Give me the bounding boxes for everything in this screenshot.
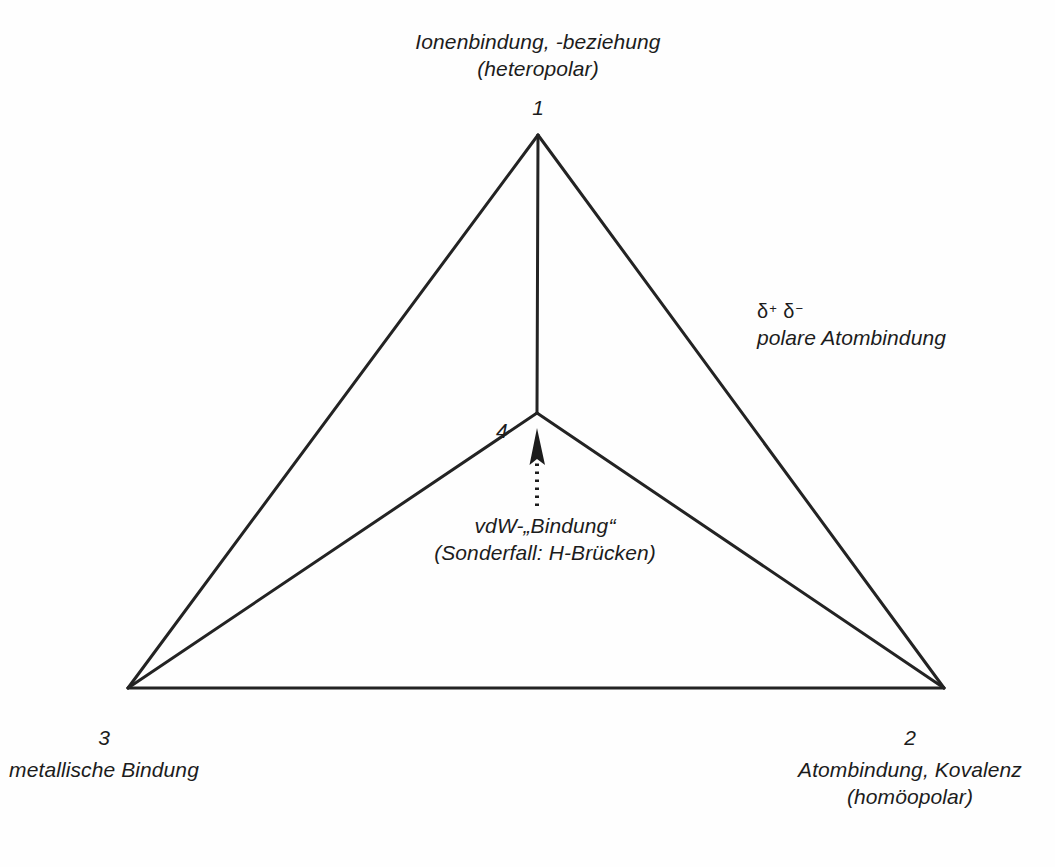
apex-label-ionic-bond: Ionenbindung, -beziehung (heteropolar) xyxy=(415,28,660,82)
vdw-pointer-arrowhead xyxy=(530,428,546,465)
vertex-number-3: 3 xyxy=(98,726,110,750)
bottom-left-label-metallic-bond: metallische Bindung xyxy=(9,756,199,783)
apex-label-line1: Ionenbindung, -beziehung xyxy=(415,30,660,53)
bottom-right-label-line1: Atombindung, Kovalenz xyxy=(798,758,1022,781)
edge-apex-to-center xyxy=(537,135,538,413)
bottom-right-label-covalent-bond: Atombindung, Kovalenz (homöopolar) xyxy=(798,756,1022,810)
bottom-left-label-line1: metallische Bindung xyxy=(9,758,199,781)
edge-label-polar-bond: δ+ δ− polare Atombindung xyxy=(757,296,946,351)
vertex-number-2: 2 xyxy=(904,726,916,750)
bond-triangle-figure: Ionenbindung, -beziehung (heteropolar) 1… xyxy=(0,0,1055,867)
center-label-line1: vdW-„Bindung“ xyxy=(475,514,616,537)
delta-positive-symbol: δ xyxy=(757,300,769,322)
edge-apex-to-bottom-left xyxy=(128,135,538,688)
center-label-line2: (Sonderfall: H-Brücken) xyxy=(434,539,656,566)
center-label-vdw-bond: vdW-„Bindung“ (Sonderfall: H-Brücken) xyxy=(434,512,656,566)
vertex-number-4: 4 xyxy=(496,419,508,443)
delta-negative-symbol: δ xyxy=(783,300,795,322)
delta-positive-sign: + xyxy=(769,301,777,316)
edge-apex-to-bottom-right xyxy=(538,135,944,688)
edge-label-polar-bond-text: polare Atombindung xyxy=(757,324,946,351)
apex-label-line2: (heteropolar) xyxy=(415,55,660,82)
bond-triangle-graphic xyxy=(0,0,1055,867)
delta-negative-sign: − xyxy=(795,301,803,316)
delta-charges-line: δ+ δ− xyxy=(757,296,946,324)
vertex-number-1: 1 xyxy=(532,96,544,120)
bottom-right-label-line2: (homöopolar) xyxy=(798,783,1022,810)
